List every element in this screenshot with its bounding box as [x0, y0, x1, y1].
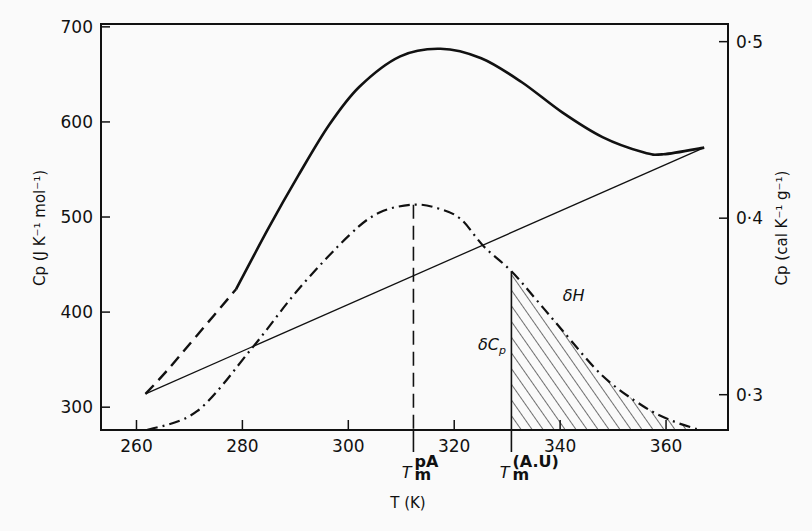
y2-axis-ticks: 0·30·40·5: [719, 32, 763, 405]
series-total-cp-dashed: [145, 289, 236, 394]
tm-pa-label: TpAm: [402, 452, 439, 484]
y-axis-ticks: 300400500600700: [61, 17, 110, 417]
delta-cp-label: δCp: [478, 335, 506, 357]
y2-tick-label: 0·3: [736, 385, 763, 405]
tm-subscript: m: [414, 465, 431, 484]
x-tick-label: 320: [438, 436, 470, 456]
x-tick-label: 300: [332, 436, 364, 456]
tm-symbol: T: [402, 463, 413, 482]
y-tick-label: 700: [61, 17, 93, 37]
y2-tick-label: 0·5: [736, 32, 763, 52]
tm-symbol: T: [500, 463, 511, 482]
series-total-cp-solid: [236, 49, 704, 290]
tm-subscript: m: [512, 465, 529, 484]
plot-frame: [101, 24, 728, 430]
y-tick-label: 400: [61, 302, 93, 322]
series-baseline-line: [145, 148, 704, 394]
y2-axis-title: Cp (cal K⁻¹ g⁻¹): [773, 171, 791, 286]
y-tick-label: 600: [61, 112, 93, 132]
y-axis-title: Cp (J K⁻¹ mol⁻¹): [31, 170, 49, 286]
x-axis-title: T (K): [389, 494, 425, 512]
y-tick-label: 500: [61, 207, 93, 227]
delta-h-hatched-area: [511, 271, 696, 430]
x-tick-label: 260: [120, 436, 152, 456]
delta-h-label: δH: [563, 286, 585, 305]
tm-au-label: T(A.U)m: [500, 452, 559, 484]
x-tick-label: 280: [226, 436, 258, 456]
x-tick-label: 360: [650, 436, 682, 456]
chart: 260280300320340360 300400500600700 0·30·…: [0, 0, 812, 531]
y2-tick-label: 0·4: [736, 208, 763, 228]
y-tick-label: 300: [61, 397, 93, 417]
